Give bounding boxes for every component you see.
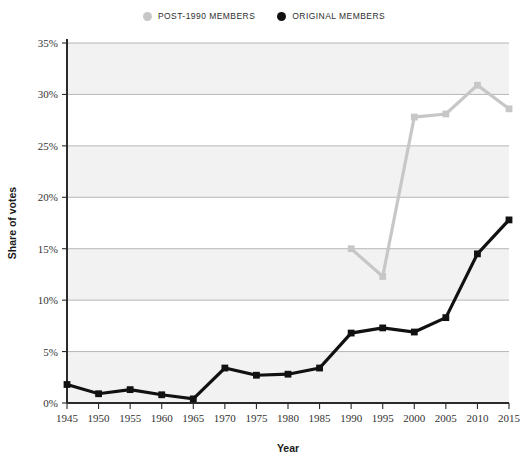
data-point-marker xyxy=(506,105,513,112)
data-point-marker xyxy=(474,250,481,257)
data-point-marker xyxy=(442,314,449,321)
x-tick-label: 2000 xyxy=(403,412,426,424)
plot-background-bands xyxy=(67,43,509,403)
data-point-marker xyxy=(474,82,481,89)
x-tick-label: 1950 xyxy=(88,412,111,424)
x-axis-tick-labels: 1945195019551960196519701975198019851990… xyxy=(56,403,521,424)
x-tick-label: 1975 xyxy=(245,412,268,424)
y-tick-label: 20% xyxy=(38,191,58,203)
data-point-marker xyxy=(411,329,418,336)
x-axis-title: Year xyxy=(277,442,299,454)
y-axis-title: Share of votes xyxy=(6,187,18,260)
data-point-marker xyxy=(411,114,418,121)
data-point-marker xyxy=(64,381,71,388)
x-tick-label: 1945 xyxy=(56,412,79,424)
y-tick-label: 5% xyxy=(43,346,58,358)
data-point-marker xyxy=(442,111,449,118)
x-tick-label: 1985 xyxy=(309,412,332,424)
y-tick-label: 0% xyxy=(43,397,58,409)
plot-gridlines xyxy=(67,43,509,403)
data-point-marker xyxy=(127,386,134,393)
data-point-marker xyxy=(506,217,513,224)
data-point-marker xyxy=(379,325,386,332)
data-point-marker xyxy=(253,372,260,379)
data-point-marker xyxy=(316,365,323,372)
x-tick-label: 2010 xyxy=(466,412,489,424)
x-tick-label: 2015 xyxy=(498,412,521,424)
x-tick-label: 1990 xyxy=(340,412,363,424)
data-point-marker xyxy=(348,330,355,337)
y-axis-tick-labels: 0%5%10%15%20%25%30%35% xyxy=(38,37,67,409)
data-point-marker xyxy=(221,365,228,372)
data-point-marker xyxy=(158,391,165,398)
x-tick-label: 1960 xyxy=(151,412,174,424)
data-point-marker xyxy=(348,245,355,252)
y-tick-label: 30% xyxy=(38,88,58,100)
y-tick-label: 25% xyxy=(38,140,58,152)
y-tick-label: 15% xyxy=(38,243,58,255)
x-tick-label: 1995 xyxy=(372,412,395,424)
y-tick-label: 10% xyxy=(38,294,58,306)
x-tick-label: 2005 xyxy=(435,412,458,424)
data-point-marker xyxy=(190,395,197,402)
data-point-marker xyxy=(95,390,102,397)
x-tick-label: 1965 xyxy=(182,412,205,424)
data-point-marker xyxy=(285,371,292,378)
y-tick-label: 35% xyxy=(38,37,58,49)
data-point-marker xyxy=(379,273,386,280)
x-tick-label: 1955 xyxy=(119,412,142,424)
x-tick-label: 1970 xyxy=(214,412,237,424)
line-chart-plot: 0%5%10%15%20%25%30%35% 19451950195519601… xyxy=(0,0,528,464)
x-tick-label: 1980 xyxy=(277,412,300,424)
chart-container: POST-1990 MEMBERS ORIGINAL MEMBERS 0%5%1… xyxy=(0,0,528,464)
